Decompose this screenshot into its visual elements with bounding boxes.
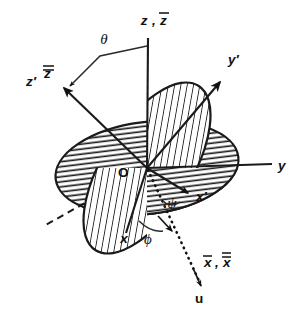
label-z-axis-bar: z <box>159 13 167 28</box>
label-y-axis: y <box>277 158 287 173</box>
label-psi: ψ <box>167 195 177 211</box>
label-x-axis: x <box>119 231 128 246</box>
label-x-prime: x′ <box>195 189 208 204</box>
label-z-double-bar-base: z <box>43 66 51 81</box>
label-z-axis-comma: , <box>151 13 156 28</box>
label-x-bars-group: x , x <box>203 253 231 270</box>
label-origin: O <box>118 165 129 180</box>
label-phi: ϕ <box>144 231 152 247</box>
label-theta: θ <box>100 31 108 47</box>
label-z-prime: z′ <box>25 74 37 89</box>
label-u-axis: u <box>195 291 203 306</box>
z-axis-line <box>147 38 148 169</box>
euler-diagram-canvas: z , z θ z′ z y′ y O ψ x′ x ϕ x <box>0 0 301 310</box>
label-y-prime: y′ <box>227 52 240 67</box>
label-z-axis-plain: z <box>140 13 148 28</box>
label-z-axis-group: z , z <box>140 13 169 28</box>
euler-angle-figure: z , z θ z′ z y′ y O ψ x′ x ϕ x <box>0 0 301 310</box>
label-x-bars-comma: , <box>214 255 219 270</box>
label-x-single-bar-base: x <box>203 255 212 270</box>
